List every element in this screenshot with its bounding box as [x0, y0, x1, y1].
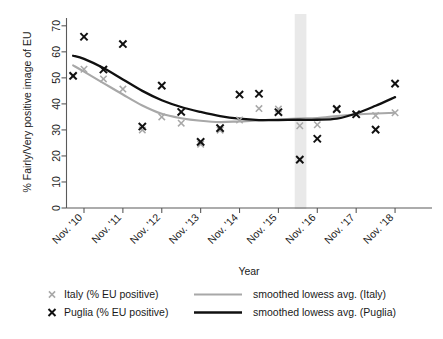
- y-tick-label: 60: [50, 46, 62, 58]
- marker-italy: [314, 122, 320, 128]
- x-tick-label: Nov. '11: [89, 211, 124, 246]
- legend-item: Italy (% EU positive): [49, 288, 159, 300]
- eu-image-scatter-chart: 010203040506070 Nov. '10Nov. '11Nov. '12…: [0, 0, 443, 339]
- x-tick-label: Nov. '13: [166, 211, 201, 246]
- x-tick-label: Nov. '15: [244, 211, 279, 246]
- chart-figure: 010203040506070 Nov. '10Nov. '11Nov. '12…: [0, 0, 443, 339]
- marker-puglia: [372, 126, 379, 133]
- legend-item: smoothed lowess avg. (Puglia): [194, 306, 396, 318]
- highlight-band: [295, 14, 307, 209]
- marker-puglia: [80, 33, 87, 40]
- x-axis-title: Year: [238, 265, 260, 277]
- legend-marker-puglia: [49, 309, 56, 316]
- y-tick-label: 10: [50, 176, 62, 188]
- y-tick-label: 30: [50, 124, 62, 136]
- x-tick-label: Nov. '16: [283, 211, 318, 246]
- marker-puglia: [70, 72, 77, 79]
- x-tick-label: Nov. '14: [205, 211, 240, 246]
- marker-puglia: [158, 82, 165, 89]
- marker-italy: [256, 105, 262, 111]
- legend-item: Puglia (% EU positive): [49, 306, 169, 318]
- highlight-band-group: [295, 14, 307, 209]
- marker-italy: [178, 120, 184, 126]
- x-axis-ticks: Nov. '10Nov. '11Nov. '12Nov. '13Nov. '14…: [49, 208, 395, 246]
- y-tick-label: 40: [50, 98, 62, 110]
- y-tick-label: 0: [50, 205, 62, 211]
- y-tick-label: 20: [50, 150, 62, 162]
- legend-item: smoothed lowess avg. (Italy): [194, 288, 386, 300]
- marker-puglia: [333, 105, 340, 112]
- legend-marker-italy: [49, 291, 55, 297]
- legend-item-label: Italy (% EU positive): [64, 288, 159, 300]
- y-tick-label: 70: [50, 20, 62, 32]
- marker-puglia: [391, 80, 398, 87]
- data-point-markers: [70, 33, 399, 163]
- marker-puglia: [236, 91, 243, 98]
- lowess-line-italy: [73, 65, 395, 122]
- marker-italy: [120, 86, 126, 92]
- y-axis-title: % Fairly/Very positive image of EU: [21, 31, 33, 192]
- marker-puglia: [119, 40, 126, 47]
- marker-italy: [100, 76, 106, 82]
- marker-puglia: [255, 90, 262, 97]
- legend-item-label: Puglia (% EU positive): [64, 306, 168, 318]
- x-tick-label: Nov. '10: [49, 211, 84, 246]
- marker-puglia: [314, 135, 321, 142]
- chart-legend: Italy (% EU positive)Puglia (% EU positi…: [49, 288, 397, 318]
- legend-item-label: smoothed lowess avg. (Puglia): [253, 306, 396, 318]
- y-axis-ticks: 010203040506070: [50, 20, 66, 211]
- x-tick-label: Nov. '12: [127, 211, 162, 246]
- x-tick-label: Nov. '17: [322, 211, 357, 246]
- smoothed-trend-lines: [73, 56, 395, 122]
- y-tick-label: 50: [50, 72, 62, 84]
- marker-puglia: [178, 108, 185, 115]
- x-tick-label: Nov. '18: [361, 211, 396, 246]
- legend-item-label: smoothed lowess avg. (Italy): [253, 288, 386, 300]
